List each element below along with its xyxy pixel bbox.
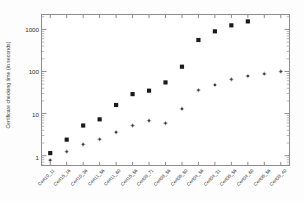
x-tick-label: Cert11_60 — [103, 168, 122, 187]
x-axis-tick-labels: Cert10_11Cert15_16Cert10_36Cert11_56Cert… — [41, 166, 290, 201]
x-tick-label: Cert10_36 — [70, 168, 89, 187]
y-tick-label: 100 — [29, 68, 39, 75]
plot-area — [41, 14, 290, 166]
data-point — [180, 65, 184, 69]
data-series-0 — [48, 19, 250, 155]
data-point — [114, 103, 118, 107]
data-point — [130, 92, 134, 96]
chart-figure: Certificate checking time (in seconds) 1… — [0, 0, 304, 201]
y-tick-label: 1 — [36, 153, 39, 160]
data-point — [48, 151, 52, 155]
data-point — [213, 29, 217, 33]
scatter-canvas — [42, 15, 289, 165]
x-axis-ticks — [50, 15, 281, 165]
data-point — [65, 138, 69, 142]
data-point — [196, 38, 200, 42]
data-point — [246, 19, 250, 23]
data-point — [163, 80, 167, 84]
x-tick-label: Cert04_60 — [236, 168, 255, 187]
x-tick-label: Cert11_56 — [87, 168, 106, 187]
x-tick-label: Cert08_56 — [153, 168, 172, 187]
y-axis-ticks — [42, 17, 289, 165]
y-tick-label: 1000 — [25, 25, 39, 32]
y-axis-title: Certificate checking time (in seconds) — [5, 42, 11, 129]
data-point — [81, 123, 85, 127]
y-axis-tick-labels: 1101001000 — [14, 14, 39, 166]
data-point — [147, 89, 151, 93]
data-point — [98, 117, 102, 121]
y-tick-label: 10 — [32, 110, 39, 117]
data-point — [229, 23, 233, 27]
x-tick-label: Cert15_16 — [53, 168, 72, 187]
